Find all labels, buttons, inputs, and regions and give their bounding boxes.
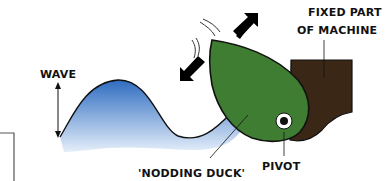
motion-arrow-up-right bbox=[232, 13, 258, 39]
motion-arrow-down-left bbox=[180, 56, 205, 81]
label-fixed-part-line1: FIXED PART bbox=[308, 6, 382, 19]
pivot-dot bbox=[280, 117, 288, 125]
label-nodding-duck: 'NODDING DUCK' bbox=[138, 167, 245, 180]
label-wave: WAVE bbox=[40, 68, 76, 81]
nodding-duck-diagram: WAVE FIXED PART OF MACHINE 'NODDING DUCK… bbox=[0, 0, 387, 181]
label-fixed-part-line2: OF MACHINE bbox=[297, 24, 377, 37]
label-pivot: PIVOT bbox=[262, 160, 301, 173]
frame-edge bbox=[0, 133, 14, 181]
wave-height-arrow bbox=[55, 82, 61, 138]
